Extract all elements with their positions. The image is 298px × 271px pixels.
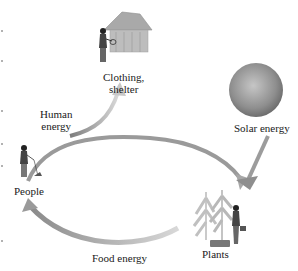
diagram-canvas (0, 0, 298, 271)
food-energy-label: Food energy (92, 252, 147, 264)
human-energy-label: Human energy (40, 108, 72, 132)
solar-to-plants-arrow-body (248, 136, 268, 180)
people-to-plants-arrow-body (28, 137, 240, 181)
human-energy-label-line1: Human (40, 108, 72, 120)
clothing-shelter-label-line2: shelter (103, 83, 144, 95)
human-energy-label-line2: energy (40, 120, 72, 132)
woman-at-plants-figure (232, 205, 246, 244)
plants-illustration (194, 190, 232, 247)
people-label: People (14, 185, 44, 197)
plants-label: Plants (202, 248, 229, 260)
hut-illustration (104, 12, 152, 52)
solar-energy-label: Solar energy (234, 122, 290, 134)
human-energy-arrow-body (70, 92, 118, 136)
food-energy-arrow-body (30, 206, 178, 242)
clothing-shelter-label-line1: Clothing, (103, 71, 144, 83)
clothing-shelter-label: Clothing, shelter (103, 71, 144, 95)
sun-icon (229, 63, 283, 117)
